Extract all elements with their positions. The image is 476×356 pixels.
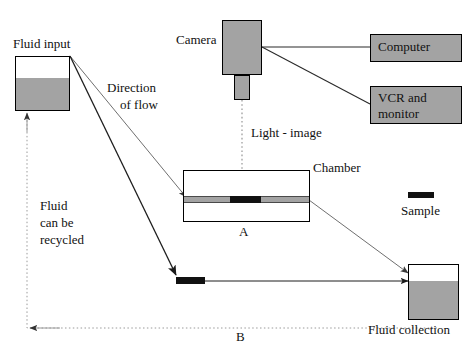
- recycle-label-line2: can be: [40, 215, 74, 230]
- direction-of-flow-label-line2: of flow: [120, 97, 158, 112]
- sample-in-chamber: [230, 196, 261, 203]
- point-a-label: A: [239, 224, 248, 239]
- camera-to-vcr-line: [262, 47, 370, 104]
- vcr-monitor-box: VCR and monitor: [370, 86, 462, 124]
- fluid-input-liquid: [16, 78, 69, 110]
- fluid-collection-liquid: [409, 281, 458, 319]
- chamber-outlet-line: [309, 200, 408, 273]
- recycle-label-line1: Fluid: [40, 198, 67, 213]
- camera-lens: [234, 75, 250, 100]
- fluid-input-label: Fluid input: [13, 36, 70, 51]
- diagram-canvas: Fluid input Direction of flow Camera Com…: [0, 0, 476, 356]
- sample-legend-label: Sample: [401, 203, 440, 218]
- sample-at-point-b: [176, 277, 205, 284]
- fluid-collection-label: Fluid collection: [368, 322, 450, 337]
- point-b-label: B: [236, 329, 245, 344]
- vcr-label-line2: monitor: [378, 106, 419, 121]
- vcr-label-line1: VCR and: [378, 90, 427, 105]
- direction-of-flow-label-line1: Direction: [107, 80, 156, 95]
- recycle-label-line3: recycled: [40, 232, 84, 247]
- camera-label: Camera: [176, 32, 216, 47]
- recycle-dotted-path: [27, 120, 437, 328]
- camera-body: [222, 20, 262, 75]
- light-image-label: Light - image: [251, 125, 322, 140]
- sample-legend-swatch: [408, 192, 434, 198]
- computer-box: Computer: [370, 34, 462, 62]
- chamber-label: Chamber: [313, 160, 361, 175]
